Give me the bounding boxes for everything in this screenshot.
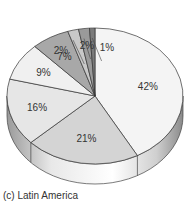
slice-label: 2% [54,45,69,56]
slice-label: 9% [36,67,51,78]
slice-label: 2% [80,40,95,51]
chart-caption: (c) Latin America [3,190,78,201]
slice-label: 1% [100,42,115,53]
slice-label: 42% [138,81,158,92]
slice-label: 16% [27,102,47,113]
pie-chart: 42%21%16%9%7%2%2%1% [0,0,190,190]
slice-label: 21% [76,133,96,144]
